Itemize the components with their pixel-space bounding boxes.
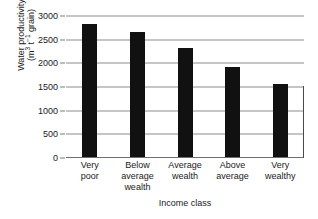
y-axis-tick-mark [60, 63, 65, 64]
gridline [66, 39, 304, 40]
y-axis-tick-mark [60, 16, 65, 17]
y-axis-tick-label: 0 [34, 154, 58, 163]
y-axis-tick-mark [60, 134, 65, 135]
y-axis-tick-mark [60, 87, 65, 88]
y-axis-tick-label: 1000 [34, 106, 58, 115]
bar [273, 84, 288, 158]
right-axis-spine [303, 86, 304, 158]
bar [82, 24, 97, 158]
x-axis-baseline [66, 157, 304, 158]
y-axis-tick-label: 500 [34, 130, 58, 139]
plot-area [66, 16, 304, 158]
bar [130, 32, 145, 158]
y-axis-tick-mark [60, 39, 65, 40]
y-axis-unit-exponent-2: −1 [24, 34, 31, 41]
y-axis-tick-label: 3000 [34, 12, 58, 21]
y-axis-tick-mark [60, 158, 65, 159]
x-axis-title: Income class [66, 198, 304, 208]
y-axis-tick-labels: 050010001500200025003000 [34, 0, 58, 219]
y-axis-tick-marks [60, 0, 65, 219]
gridline [66, 16, 304, 17]
y-axis-tick-label: 2500 [34, 35, 58, 44]
y-axis-tick-mark [60, 110, 65, 111]
y-axis-unit-exponent-1: 3 [24, 47, 31, 51]
y-axis-tick-label: 2000 [34, 59, 58, 68]
bar [178, 48, 193, 158]
y-axis-tick-label: 1500 [34, 83, 58, 92]
y-axis-title-line1: Water productivity [16, 0, 27, 71]
bar [225, 67, 240, 158]
x-axis-tick-label: Very wealthy [250, 160, 310, 182]
water-productivity-bar-chart: Water productivity (m3 t−1 grain) 050010… [0, 0, 318, 219]
